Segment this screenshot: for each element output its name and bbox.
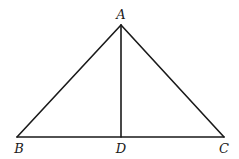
vertex-label-b: B [13, 141, 24, 156]
segment-ac [121, 25, 224, 137]
triangle-diagram: A B D C [0, 0, 239, 159]
point-label-d: D [115, 141, 127, 156]
vertex-label-c: C [219, 141, 229, 156]
segment-ab [17, 25, 121, 137]
vertex-label-a: A [115, 7, 125, 22]
